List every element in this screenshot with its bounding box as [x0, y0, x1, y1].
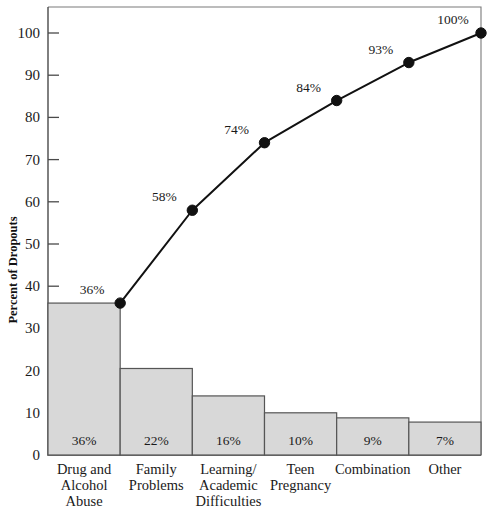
y-tick-label-90: 90 [25, 67, 40, 83]
cumulative-value-label-2: 74% [224, 122, 249, 137]
y-tick-label-50: 50 [25, 236, 40, 252]
bar-value-label-3: 10% [288, 433, 313, 448]
bars [48, 303, 481, 455]
y-tick-label-100: 100 [18, 25, 41, 41]
cumulative-value-label-3: 84% [296, 80, 321, 95]
chart-svg: 0102030405060708090100 36%22%16%10%9%7% … [0, 0, 494, 515]
cumulative-points [115, 28, 486, 308]
category-label-3-line-1: Pregnancy [270, 477, 332, 493]
category-label-5-line-0: Other [428, 461, 461, 477]
cumulative-value-label-5: 100% [437, 12, 469, 27]
cumulative-point-0 [115, 298, 125, 308]
y-tick-label-40: 40 [25, 278, 40, 294]
category-label-0-line-0: Drug and [57, 461, 112, 477]
y-tick-label-80: 80 [25, 109, 40, 125]
category-label-1-line-1: Problems [129, 477, 184, 493]
cumulative-point-1 [187, 205, 197, 215]
cumulative-value-label-4: 93% [368, 42, 393, 57]
cumulative-point-5 [476, 28, 486, 38]
category-label-3-line-0: Teen [287, 461, 316, 477]
category-label-2-line-0: Learning/ [200, 461, 257, 477]
category-label-1-line-0: Family [136, 461, 178, 477]
cumulative-point-4 [404, 57, 414, 67]
y-tick-label-10: 10 [25, 405, 40, 421]
y-tick-label-20: 20 [25, 363, 40, 379]
bar-value-label-2: 16% [216, 433, 241, 448]
cumulative-value-label-0: 36% [80, 282, 105, 297]
bar-value-label-0: 36% [72, 433, 97, 448]
cumulative-value-labels: 36%58%74%84%93%100% [80, 12, 469, 297]
y-tick-label-60: 60 [25, 194, 40, 210]
y-axis-title: Percent of Dropouts [6, 216, 20, 323]
cumulative-line [120, 33, 481, 303]
category-label-2-line-1: Academic [199, 477, 258, 493]
cumulative-value-label-1: 58% [152, 189, 177, 204]
y-tick-label-30: 30 [25, 320, 40, 336]
bar-value-label-5: 7% [436, 433, 454, 448]
pareto-chart: 0102030405060708090100 36%22%16%10%9%7% … [0, 0, 494, 515]
cumulative-polyline [120, 33, 481, 303]
cumulative-point-3 [331, 95, 341, 105]
bar-value-label-1: 22% [144, 433, 169, 448]
category-label-4-line-0: Combination [335, 461, 411, 477]
category-label-2-line-2: Difficulties [196, 493, 262, 509]
bar-value-label-4: 9% [364, 433, 382, 448]
x-axis-category-labels: Drug andAlcoholAbuseFamilyProblemsLearni… [57, 461, 462, 509]
y-tick-label-70: 70 [25, 152, 40, 168]
y-axis-tick-labels: 0102030405060708090100 [18, 25, 41, 463]
category-label-0-line-1: Alcohol [61, 477, 108, 493]
category-label-0-line-2: Abuse [66, 493, 103, 509]
cumulative-point-2 [259, 138, 269, 148]
y-tick-label-0: 0 [33, 447, 41, 463]
